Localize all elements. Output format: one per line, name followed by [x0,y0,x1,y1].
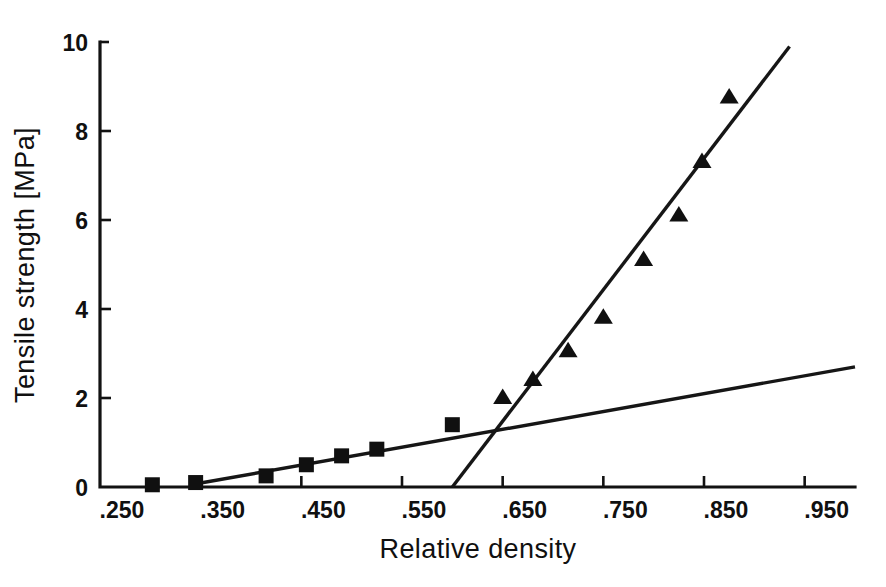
y-axis-tick-label: 4 [75,297,88,323]
x-axis-tick-label: .750 [603,497,648,523]
y-axis-title: Tensile strength [MPa] [10,127,40,403]
x-axis-tick-label: .850 [704,497,749,523]
chart-figure: 0246810.250.350.450.550.650.750.850.950 … [0,0,886,587]
axis-tick-labels-group: 0246810.250.350.450.550.650.750.850.950 [62,30,849,523]
scatter-plot-svg: 0246810.250.350.450.550.650.750.850.950 … [0,0,886,587]
fit-lines-group [191,46,855,487]
y-axis-tick-label: 10 [62,30,88,56]
data-point-square [369,442,384,457]
y-axis-tick-label: 8 [75,119,88,145]
y-axis-tick-label: 0 [75,475,88,501]
x-axis-tick-label: .350 [200,497,245,523]
data-point-square [145,477,160,492]
data-markers-group [145,88,739,492]
x-axis-tick-label: .950 [804,497,849,523]
data-point-triangle [720,88,739,104]
x-axis-tick-label: .650 [502,497,547,523]
data-point-square [334,448,349,463]
y-axis-tick-label: 6 [75,208,88,234]
data-point-square [299,457,314,472]
x-axis-tick-label: .250 [100,497,145,523]
axis-titles-group: Relative density Tensile strength [MPa] [10,127,577,564]
x-axis-title: Relative density [380,534,577,564]
data-point-triangle [493,388,512,404]
steep-fit-line [452,46,789,487]
x-axis-tick-label: .550 [402,497,447,523]
data-point-square [445,417,460,432]
data-point-square [188,475,203,490]
shallow-fit-line [191,367,855,485]
x-axis-tick-label: .450 [301,497,346,523]
y-axis-tick-label: 2 [75,386,88,412]
data-point-triangle [634,250,653,266]
data-point-triangle [669,206,688,222]
data-point-triangle [594,308,613,324]
data-point-square [259,468,274,483]
